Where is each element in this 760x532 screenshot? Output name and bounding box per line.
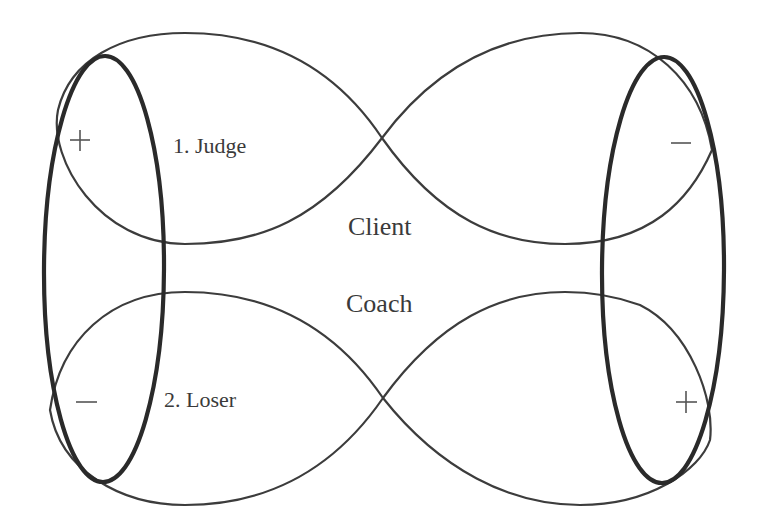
judge-label: 1. Judge [173,133,246,159]
plus-sign-top-left [70,130,90,151]
coach-label: Coach [346,289,412,319]
lower-right-lobe [383,292,711,505]
plus-sign-bottom-right [676,391,697,413]
diagram-canvas [0,0,760,532]
loser-label: 2. Loser [164,387,236,413]
client-label: Client [348,212,412,242]
left-ellipse [43,56,165,483]
right-ellipse [601,57,725,484]
upper-right-lobe [382,33,712,244]
